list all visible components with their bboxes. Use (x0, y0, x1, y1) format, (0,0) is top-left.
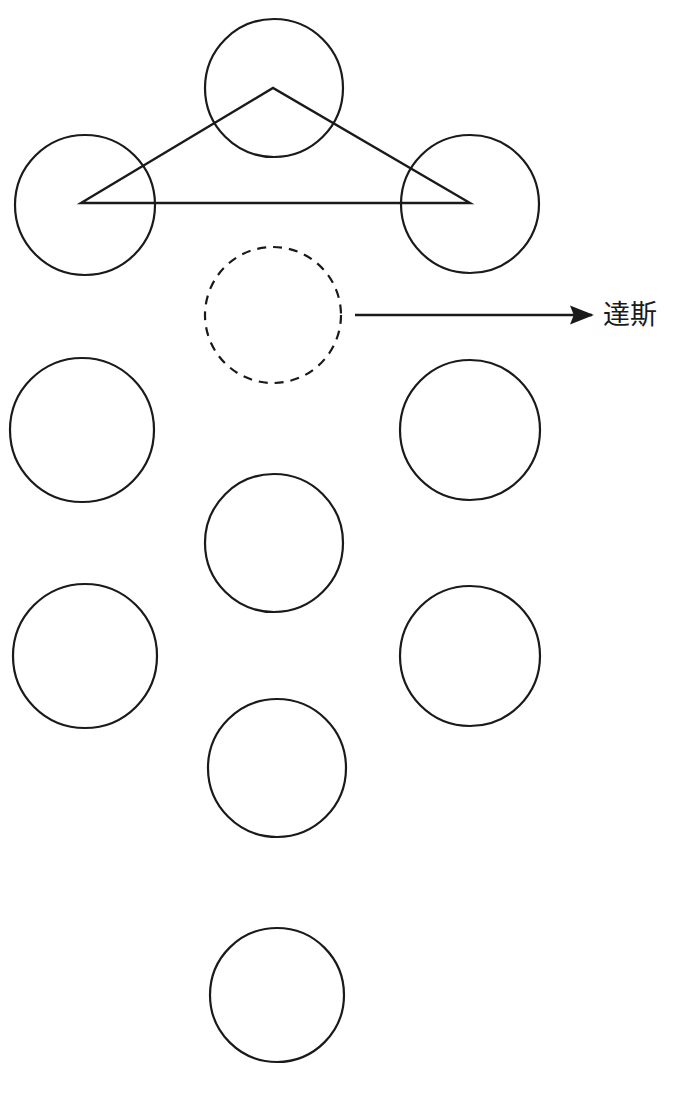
diagram-svg (0, 0, 679, 1099)
circle-dashed-middle (205, 247, 341, 383)
circle-row3-right (400, 360, 540, 500)
circle-row3-left (10, 358, 154, 502)
circles-layer (10, 19, 540, 1062)
circle-top-left (15, 135, 155, 275)
circle-row6-middle (208, 699, 346, 837)
circle-row5-left (13, 584, 157, 728)
circle-row4-middle (205, 474, 343, 612)
annotation-label: 達斯 (603, 301, 657, 328)
circle-row5-right (400, 586, 540, 726)
circle-bottom-middle (210, 928, 344, 1062)
connector-triangle (81, 88, 470, 203)
diagram-canvas-root: 達斯 (0, 0, 679, 1099)
